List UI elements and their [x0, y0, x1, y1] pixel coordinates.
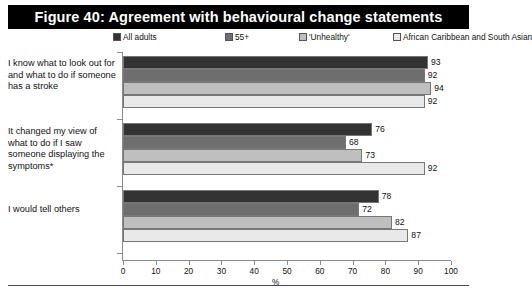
bar-value-label: 93 — [431, 56, 441, 69]
legend-item-1: 55+ — [225, 33, 249, 41]
x-tick-label: 10 — [141, 266, 171, 276]
x-tick-mark — [254, 261, 255, 265]
bar-value-label: 92 — [428, 162, 438, 175]
chart-plot-area: 0102030405060708090100 I know what to lo… — [0, 44, 477, 262]
x-tick-mark — [123, 261, 124, 265]
bar — [123, 216, 392, 229]
bar — [123, 95, 425, 108]
bar-value-label: 72 — [362, 203, 372, 216]
bottom-divider — [8, 285, 469, 286]
x-tick-mark — [320, 261, 321, 265]
x-tick-label: 20 — [174, 266, 204, 276]
x-tick-mark — [189, 261, 190, 265]
figure-title-bar: Figure 40: Agreement with behavioural ch… — [8, 5, 469, 29]
x-tick-label: 0 — [108, 266, 138, 276]
x-tick-mark — [385, 261, 386, 265]
y-tick-mark — [117, 52, 122, 53]
bar-value-label: 68 — [349, 136, 359, 149]
bar — [123, 69, 425, 82]
legend-item-0: All adults — [113, 33, 157, 41]
legend-label: 55+ — [235, 33, 249, 41]
x-tick-label: 90 — [403, 266, 433, 276]
page-title: Figure 40: Agreement with behavioural ch… — [35, 9, 443, 25]
x-tick-label: 70 — [338, 266, 368, 276]
legend-label: African Caribbean and South Asian — [403, 33, 532, 41]
x-tick-label: 60 — [305, 266, 335, 276]
legend-item-2: 'Unhealthy' — [299, 33, 350, 41]
bar-value-label: 76 — [375, 123, 385, 136]
x-tick-mark — [353, 261, 354, 265]
bar — [123, 56, 428, 69]
legend-swatch-icon — [299, 33, 307, 41]
bar-value-label: 94 — [434, 82, 444, 95]
legend-item-3: African Caribbean and South Asian — [393, 33, 532, 41]
chart-legend: All adults55+'Unhealthy'African Caribbea… — [113, 31, 473, 43]
bar-value-label: 73 — [365, 149, 375, 162]
x-tick-label: 30 — [206, 266, 236, 276]
bar-value-label: 92 — [428, 95, 438, 108]
y-tick-mark — [117, 186, 122, 187]
bar — [123, 136, 346, 149]
x-tick-label: 80 — [370, 266, 400, 276]
bar — [123, 123, 372, 136]
legend-swatch-icon — [113, 33, 121, 41]
x-tick-mark — [418, 261, 419, 265]
x-tick-mark — [221, 261, 222, 265]
bar — [123, 149, 362, 162]
legend-swatch-icon — [225, 33, 233, 41]
y-tick-mark — [117, 253, 122, 254]
legend-label: All adults — [123, 33, 157, 41]
x-tick-mark — [287, 261, 288, 265]
y-tick-mark — [117, 119, 122, 120]
x-tick-label: 40 — [239, 266, 269, 276]
bar-value-label: 92 — [428, 69, 438, 82]
legend-swatch-icon — [393, 33, 401, 41]
category-label-0: I know what to look out for and what to … — [8, 58, 116, 93]
x-tick-label: 100 — [436, 266, 466, 276]
legend-label: 'Unhealthy' — [309, 33, 350, 41]
bar — [123, 203, 359, 216]
category-label-2: I would tell others — [8, 204, 116, 216]
bar-value-label: 82 — [395, 216, 405, 229]
bar-value-label: 78 — [382, 190, 392, 203]
bar-value-label: 87 — [411, 229, 421, 242]
bar — [123, 190, 379, 203]
bar — [123, 162, 425, 175]
bar — [123, 229, 408, 242]
x-tick-label: 50 — [272, 266, 302, 276]
x-tick-mark — [451, 261, 452, 265]
x-tick-mark — [156, 261, 157, 265]
category-label-1: It changed my view of what to do if I sa… — [8, 126, 116, 172]
bar — [123, 82, 431, 95]
